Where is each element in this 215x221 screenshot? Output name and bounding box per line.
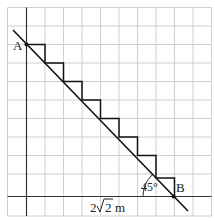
svg-text:2: 2 [105, 200, 112, 215]
angle-label: 45° [141, 180, 158, 194]
point-a-label: A [13, 38, 23, 53]
length-label: 2 2 m [90, 199, 125, 215]
point-a-marker [25, 43, 29, 47]
point-b-marker [172, 195, 176, 199]
svg-text:m: m [115, 200, 125, 215]
staircase-diagram: A B 45° 2 2 m [0, 0, 215, 221]
point-b-label: B [176, 180, 185, 195]
svg-text:2: 2 [90, 200, 97, 215]
